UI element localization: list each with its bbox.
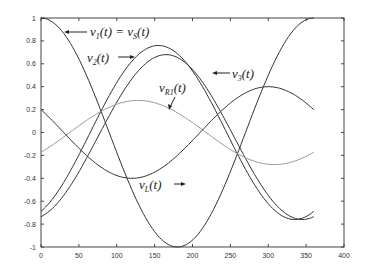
x-tick-label: 50 [75, 252, 83, 259]
x-tick-label: 250 [225, 252, 237, 259]
y-tick-label: -0.8 [24, 221, 36, 228]
y-tick-label: -0.6 [24, 198, 36, 205]
svg-text:vL(t): vL(t) [139, 177, 162, 194]
y-axis-tick-labels: 10.80.60.40.20-0.2-0.4-0.6-0.8-1 [24, 15, 36, 251]
y-tick-label: 0.2 [26, 106, 36, 113]
y-tick-label: -0.4 [24, 175, 36, 182]
y-tick-label: 1 [32, 15, 36, 22]
y-tick-label: 0.8 [26, 37, 36, 44]
x-tick-label: 150 [149, 252, 161, 259]
x-tick-label: 400 [338, 252, 350, 259]
x-tick-label: 300 [262, 252, 274, 259]
svg-text:v3(t): v3(t) [232, 66, 254, 83]
y-tick-label: 0.4 [26, 83, 36, 90]
svg-text:v2(t): v2(t) [87, 50, 109, 67]
x-tick-label: 350 [300, 252, 312, 259]
svg-text:v1(t) = vS(t): v1(t) = vS(t) [90, 24, 149, 41]
x-tick-label: 200 [187, 252, 199, 259]
y-tick-label: 0.6 [26, 60, 36, 67]
x-tick-label: 100 [111, 252, 123, 259]
y-tick-label: 0 [32, 129, 36, 136]
x-axis-tick-labels: 050100150200250300350400 [39, 252, 350, 259]
x-tick-label: 0 [39, 252, 43, 259]
y-tick-label: -1 [30, 244, 36, 251]
y-tick-label: -0.2 [24, 152, 36, 159]
line-chart: 050100150200250300350400 10.80.60.40.20-… [0, 0, 368, 279]
